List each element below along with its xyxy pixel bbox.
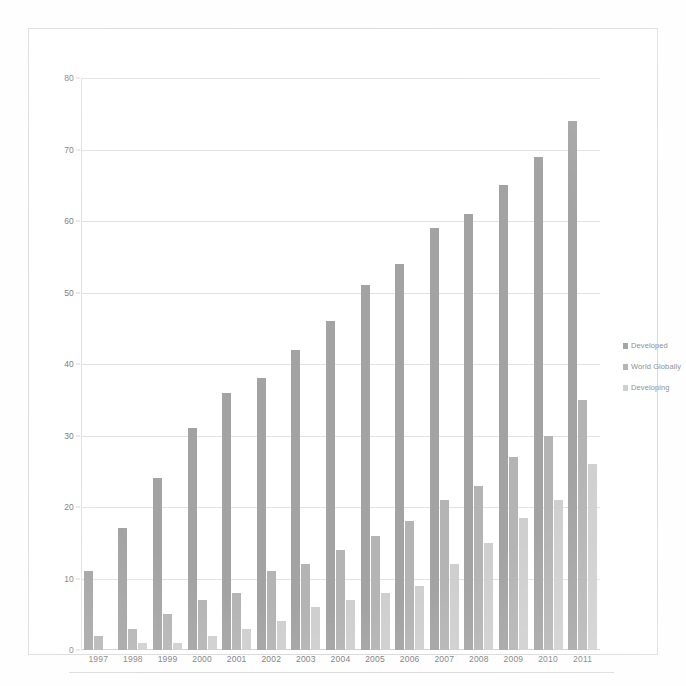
bar bbox=[568, 121, 577, 650]
chart-legend: DevelopedWorld GloballyDeveloping bbox=[623, 341, 686, 404]
bar-group bbox=[565, 78, 600, 650]
legend-item-label: Developed bbox=[631, 341, 668, 350]
y-axis-tick-label: 60 bbox=[64, 216, 74, 226]
bar bbox=[450, 564, 459, 650]
bar-group bbox=[185, 78, 220, 650]
x-axis-tick-label: 2005 bbox=[358, 654, 393, 674]
bar bbox=[588, 464, 597, 650]
legend-item-label: World Globally bbox=[631, 362, 681, 371]
bar bbox=[544, 436, 553, 651]
legend-item[interactable]: Developing bbox=[623, 383, 686, 392]
bar-group bbox=[81, 78, 116, 650]
bar bbox=[208, 636, 217, 650]
bar bbox=[484, 543, 493, 650]
bar bbox=[257, 378, 266, 650]
x-axis-tick-label: 2009 bbox=[496, 654, 531, 674]
bar bbox=[326, 321, 335, 650]
bar bbox=[222, 393, 231, 650]
y-axis-tick-label: 30 bbox=[64, 431, 74, 441]
bar-group bbox=[427, 78, 462, 650]
bar bbox=[153, 478, 162, 650]
bar-group bbox=[150, 78, 185, 650]
bar bbox=[232, 593, 241, 650]
bar bbox=[198, 600, 207, 650]
bar bbox=[371, 536, 380, 650]
bar bbox=[336, 550, 345, 650]
chart-page: 01020304050607080 1997199819992000200120… bbox=[0, 0, 686, 686]
bar bbox=[440, 500, 449, 650]
legend-swatch-icon bbox=[623, 364, 628, 370]
bar bbox=[381, 593, 390, 650]
bar bbox=[173, 643, 182, 650]
bar bbox=[301, 564, 310, 650]
y-axis-tick-mark bbox=[76, 149, 80, 150]
bar bbox=[405, 521, 414, 650]
y-axis-tick-label: 20 bbox=[64, 502, 74, 512]
bar bbox=[188, 428, 197, 650]
bar bbox=[578, 400, 587, 650]
plot-area: 01020304050607080 bbox=[81, 78, 600, 650]
bar bbox=[267, 571, 276, 650]
bar bbox=[163, 614, 172, 650]
x-axis-tick-label: 2006 bbox=[392, 654, 427, 674]
bar-group bbox=[219, 78, 254, 650]
y-axis-tick-label: 50 bbox=[64, 288, 74, 298]
y-axis-tick-label: 70 bbox=[64, 145, 74, 155]
x-axis-tick-label: 2003 bbox=[289, 654, 324, 674]
bar bbox=[534, 157, 543, 650]
bar-group bbox=[116, 78, 151, 650]
bar bbox=[415, 586, 424, 650]
bar bbox=[346, 600, 355, 650]
bar-groups bbox=[81, 78, 600, 650]
x-axis-rule bbox=[69, 672, 614, 673]
legend-item-label: Developing bbox=[631, 383, 670, 392]
bar bbox=[311, 607, 320, 650]
bar-group bbox=[496, 78, 531, 650]
bar-group bbox=[531, 78, 566, 650]
x-axis-tick-label: 2011 bbox=[565, 654, 600, 674]
x-axis-tick-label: 2001 bbox=[219, 654, 254, 674]
x-axis-tick-label: 2007 bbox=[427, 654, 462, 674]
legend-item[interactable]: World Globally bbox=[623, 362, 686, 371]
x-axis-tick-label: 2002 bbox=[254, 654, 289, 674]
legend-swatch-icon bbox=[623, 385, 628, 391]
chart-frame: 01020304050607080 1997199819992000200120… bbox=[28, 28, 658, 655]
legend-item[interactable]: Developed bbox=[623, 341, 686, 350]
x-axis-tick-label: 1998 bbox=[116, 654, 151, 674]
x-axis-labels: 1997199819992000200120022003200420052006… bbox=[81, 654, 600, 674]
y-axis-tick-label: 10 bbox=[64, 574, 74, 584]
y-axis-tick-label: 40 bbox=[64, 359, 74, 369]
bar bbox=[291, 350, 300, 650]
y-axis-tick-mark bbox=[76, 78, 80, 79]
y-axis-tick-label: 80 bbox=[64, 73, 74, 83]
bar-group bbox=[254, 78, 289, 650]
bar-group bbox=[462, 78, 497, 650]
bar bbox=[138, 643, 147, 650]
bar bbox=[519, 518, 528, 650]
bar-group bbox=[323, 78, 358, 650]
bar bbox=[430, 228, 439, 650]
y-axis-tick-mark bbox=[76, 435, 80, 436]
x-axis-tick-label: 2000 bbox=[185, 654, 220, 674]
y-axis-tick-mark bbox=[76, 578, 80, 579]
bar bbox=[509, 457, 518, 650]
x-axis-tick-label: 1999 bbox=[150, 654, 185, 674]
bar bbox=[118, 528, 127, 650]
x-axis-tick-label: 2004 bbox=[323, 654, 358, 674]
bar bbox=[128, 629, 137, 650]
y-axis-tick-label: 0 bbox=[69, 645, 74, 655]
bar bbox=[554, 500, 563, 650]
bar-group bbox=[289, 78, 324, 650]
x-axis-tick-label: 2010 bbox=[531, 654, 566, 674]
y-axis-tick-mark bbox=[76, 650, 80, 651]
y-axis-tick-mark bbox=[76, 364, 80, 365]
y-axis-tick-mark bbox=[76, 507, 80, 508]
bar bbox=[464, 214, 473, 650]
bar-group bbox=[392, 78, 427, 650]
bar bbox=[242, 629, 251, 650]
legend-swatch-icon bbox=[623, 343, 628, 349]
bar bbox=[474, 486, 483, 650]
bar bbox=[395, 264, 404, 650]
x-axis-tick-label: 1997 bbox=[81, 654, 116, 674]
y-axis-tick-mark bbox=[76, 221, 80, 222]
